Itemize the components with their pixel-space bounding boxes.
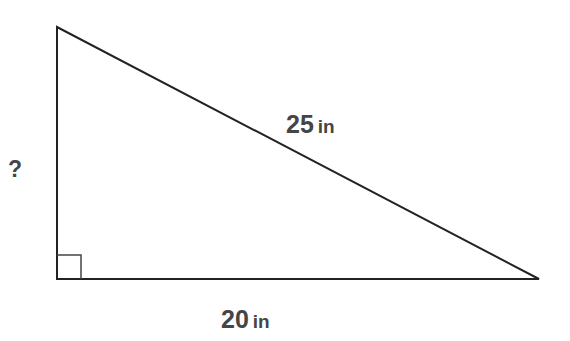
height-unknown-label: ?	[8, 158, 22, 181]
base-value: 20	[221, 305, 249, 333]
hypotenuse-label: 25in	[286, 112, 335, 137]
triangle-shape	[57, 27, 539, 279]
hypotenuse-unit: in	[318, 116, 335, 137]
right-triangle-diagram	[0, 0, 570, 341]
right-angle-marker	[57, 255, 81, 279]
base-unit: in	[253, 311, 270, 332]
hypotenuse-value: 25	[286, 110, 314, 138]
base-label: 20in	[221, 307, 270, 332]
